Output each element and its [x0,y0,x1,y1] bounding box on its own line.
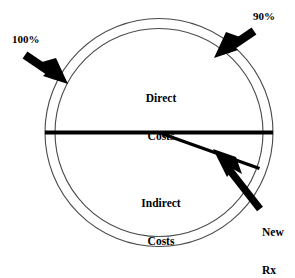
direct-costs-line-2: Costs [129,130,193,143]
callout-label-90-percent: 90% [253,10,275,22]
callout-label-new-rx: New Rx [262,200,284,278]
arrow-90-percent [214,31,254,58]
indirect-costs-line-2: Costs [124,235,198,248]
arrow-new-rx [213,149,260,209]
direct-costs-line-1: Direct [129,92,193,105]
indirect-costs-line-1: Indirect [124,197,198,210]
new-rx-line-2: Rx [262,264,284,277]
segment-label-direct-costs: Direct Costs [129,66,193,169]
arrow-100-percent [25,55,68,84]
new-rx-line-1: New [262,226,284,239]
segment-label-indirect-costs: Indirect Costs [124,171,198,274]
callout-label-100-percent: 100% [12,33,40,45]
